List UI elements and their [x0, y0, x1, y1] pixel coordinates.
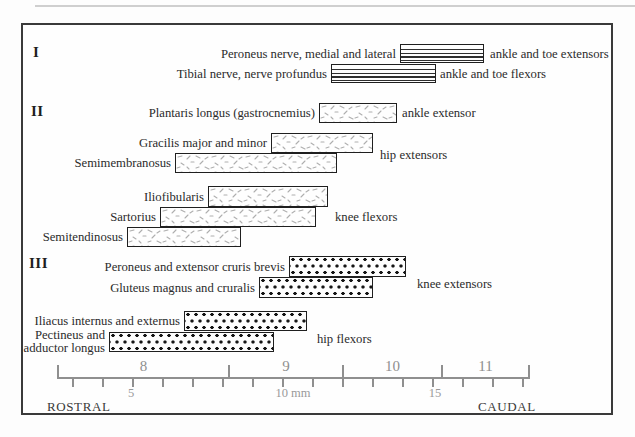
- muscle-label: Plantaris longus (gastrocnemius): [149, 107, 315, 120]
- axis-minor-tick: [222, 379, 223, 388]
- axis-minor-tick: [342, 379, 343, 388]
- axis-minor-tick: [72, 379, 73, 388]
- scan-artifact-line: [35, 5, 635, 7]
- caudal-label: CAUDAL: [478, 399, 536, 415]
- muscle-bar: [160, 207, 316, 227]
- muscle-bar: [175, 153, 337, 173]
- axis-minor-tick: [102, 379, 103, 388]
- mm-label: 15: [429, 386, 442, 401]
- function-label: hip extensors: [380, 148, 447, 163]
- muscle-label: Peroneus nerve, medial and lateral: [221, 47, 396, 60]
- axis-major-tick: [57, 365, 58, 379]
- muscle-label: Pectineus and adductor longus: [24, 329, 105, 355]
- mm-label: 5: [128, 386, 134, 401]
- speckle-fill: [209, 187, 327, 206]
- segment-label: 8: [140, 358, 148, 375]
- muscle-label: Semitendinosus: [43, 231, 123, 244]
- axis-minor-tick: [312, 379, 313, 388]
- speckle-fill: [272, 134, 372, 152]
- muscle-bar: [319, 103, 397, 123]
- muscle-label: Semimembranosus: [74, 157, 171, 170]
- function-label: knee flexors: [335, 210, 397, 225]
- segment-label: 11: [478, 358, 492, 375]
- segment-label: 9: [282, 358, 290, 375]
- axis-major-tick: [228, 365, 229, 379]
- function-label: ankle and toe flexors: [440, 67, 546, 82]
- muscle-bar: [208, 186, 328, 207]
- group-numeral-I: I: [33, 44, 39, 61]
- motor-pool-figure: IIIIIIPeroneus nerve, medial and lateral…: [0, 0, 635, 437]
- speckle-fill: [176, 154, 336, 172]
- muscle-bar: [331, 64, 436, 83]
- axis-minor-tick: [162, 379, 163, 388]
- axis-minor-tick: [192, 379, 193, 388]
- muscle-label: Tibial nerve, nerve profundus: [177, 67, 327, 80]
- speckle-fill: [320, 104, 396, 122]
- axis-minor-tick: [522, 379, 523, 388]
- axis-minor-tick: [402, 379, 403, 388]
- muscle-label: Iliofibularis: [144, 190, 204, 203]
- muscle-bar: [127, 227, 241, 247]
- axis-line: [58, 377, 529, 378]
- speckle-fill: [161, 208, 315, 226]
- function-label: ankle extensor: [402, 106, 476, 121]
- group-numeral-II: II: [31, 103, 44, 120]
- mm-label: 10 mm: [275, 386, 310, 401]
- muscle-bar: [400, 44, 484, 63]
- muscle-label: Iliacus internus and externus: [34, 315, 180, 328]
- axis-major-tick: [528, 365, 529, 379]
- function-label: hip flexors: [317, 332, 372, 347]
- muscle-bar: [184, 311, 307, 331]
- muscle-label: Sartorius: [110, 211, 156, 224]
- group-numeral-III: III: [29, 255, 48, 272]
- muscle-label: Peroneus and extensor cruris brevis: [105, 260, 285, 273]
- axis-major-tick: [342, 365, 343, 379]
- muscle-bar: [109, 332, 274, 352]
- muscle-label: Gracilis major and minor: [139, 137, 267, 150]
- muscle-bar: [259, 277, 373, 298]
- rostral-label: ROSTRAL: [47, 399, 110, 415]
- muscle-bar: [289, 256, 406, 277]
- speckle-fill: [128, 228, 240, 246]
- muscle-label: Gluteus magnus and cruralis: [110, 281, 255, 294]
- segment-label: 10: [385, 358, 400, 375]
- function-label: ankle and toe extensors: [490, 47, 609, 62]
- function-label: knee extensors: [417, 277, 492, 292]
- muscle-bar: [271, 133, 373, 153]
- axis-minor-tick: [462, 379, 463, 388]
- axis-minor-tick: [492, 379, 493, 388]
- axis-minor-tick: [252, 379, 253, 388]
- axis-minor-tick: [372, 379, 373, 388]
- axis-major-tick: [441, 365, 442, 379]
